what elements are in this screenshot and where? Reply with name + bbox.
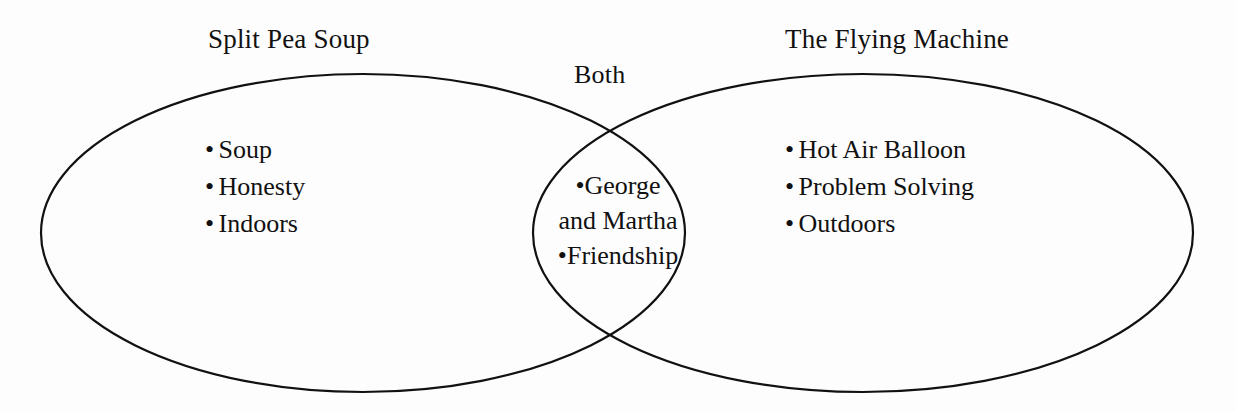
bullet-icon: • [785,205,799,242]
list-item: •George [519,168,717,203]
intersection-item-list: •George and Martha •Friendship [519,168,717,273]
list-item: •Hot Air Balloon [785,131,974,168]
venn-diagram: Split Pea Soup The Flying Machine Both •… [0,0,1236,411]
list-item: •Problem Solving [785,168,974,205]
bullet-icon: • [785,168,799,205]
list-item-label: Soup [219,135,272,164]
list-item-label-wrap: and Martha [558,206,677,235]
bullet-icon: • [558,241,567,270]
list-item-label: Problem Solving [799,172,975,201]
bullet-icon: • [785,131,799,168]
list-item: •Soup [205,131,305,168]
list-item: •Outdoors [785,205,974,242]
bullet-icon: • [205,205,219,242]
list-item-label: Indoors [219,209,298,238]
list-item: •Friendship [519,238,717,273]
right-set-item-list: •Hot Air Balloon •Problem Solving •Outdo… [785,131,974,242]
right-set-title: The Flying Machine [785,26,1009,53]
left-set-title: Split Pea Soup [208,26,370,53]
list-item-label: George [585,171,661,200]
list-item-label: Hot Air Balloon [799,135,967,164]
intersection-title: Both [574,62,625,88]
left-set-item-list: •Soup •Honesty •Indoors [205,131,305,242]
list-item-label: Honesty [219,172,306,201]
list-item-label: Friendship [567,241,678,270]
bullet-icon: • [205,168,219,205]
list-item-continuation: and Martha [519,203,717,238]
bullet-icon: • [575,171,584,200]
bullet-icon: • [205,131,219,168]
list-item: •Indoors [205,205,305,242]
list-item-label: Outdoors [799,209,896,238]
list-item: •Honesty [205,168,305,205]
